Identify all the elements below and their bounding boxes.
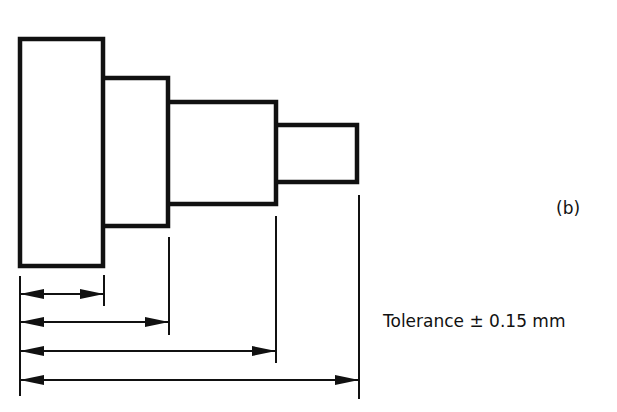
shaft-step-2 xyxy=(103,78,168,226)
shaft-step-1 xyxy=(20,39,103,266)
extension-lines xyxy=(20,195,359,399)
shaft-step-4 xyxy=(276,125,357,182)
shaft-outline xyxy=(20,39,357,266)
shaft-step-3 xyxy=(168,102,276,204)
figure-label: (b) xyxy=(556,198,580,218)
dimension-lines xyxy=(21,294,358,380)
tolerance-label: Tolerance ± 0.15 mm xyxy=(383,311,566,331)
stepped-shaft-diagram xyxy=(0,0,617,412)
